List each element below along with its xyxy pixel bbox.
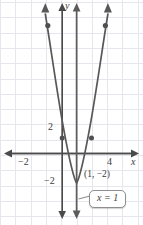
x-tick-label-neg2: −2 (18, 157, 29, 167)
point-2-2 (89, 136, 94, 141)
axis-of-symmetry-line (73, 3, 81, 219)
y-tick-label-neg2: −2 (44, 176, 55, 186)
y-axis-label: y (65, 1, 69, 11)
point-left-upper (45, 23, 50, 28)
vertex-label: (1, −2) (84, 170, 110, 180)
y-tick-label-2: 2 (48, 122, 53, 132)
point-right-upper (103, 23, 108, 28)
x-axis-label: x (131, 157, 135, 167)
point-0-2 (60, 136, 65, 141)
axis-of-symmetry-callout: x = 1 (89, 190, 126, 208)
y-axis (58, 3, 66, 219)
graph-figure: y x −2 4 2 −2 (1, −2) x = 1 (0, 0, 143, 225)
x-tick-label-4: 4 (107, 157, 112, 167)
